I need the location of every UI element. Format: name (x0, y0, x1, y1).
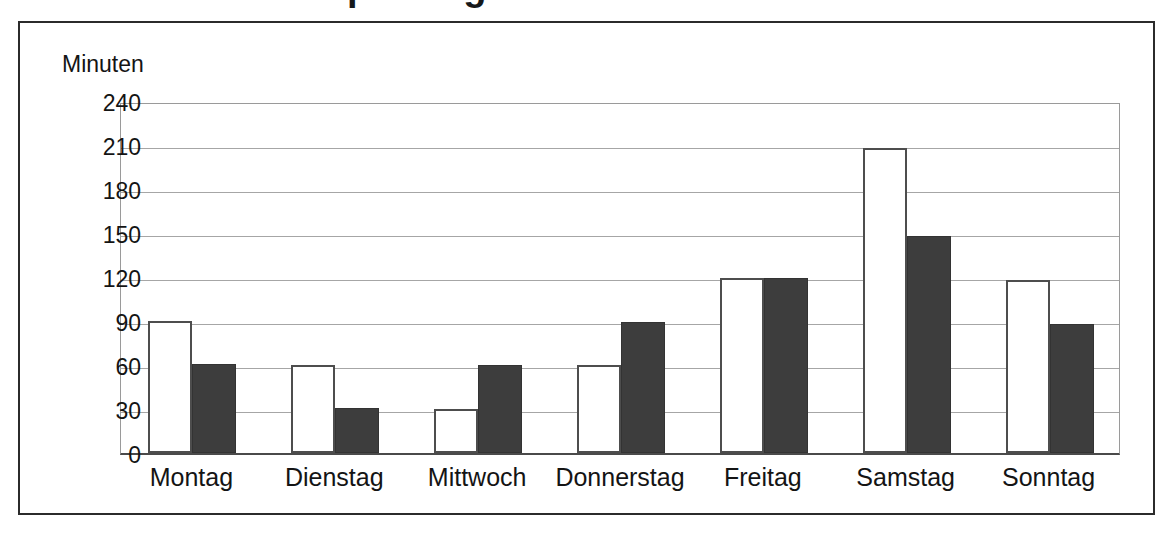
y-tick-label: 240 (51, 90, 141, 117)
bar-sonntag-series-2 (1050, 324, 1094, 453)
x-tick-label-freitag: Freitag (724, 463, 802, 492)
bar-mittwoch-series-2 (478, 365, 522, 453)
x-tick-label-montag: Montag (150, 463, 233, 492)
y-tick-label: 30 (51, 398, 141, 425)
bar-dienstag-series-1 (291, 365, 335, 453)
bar-sonntag-series-1 (1006, 280, 1050, 453)
bar-dienstag-series-2 (335, 408, 379, 453)
figure-frame: Minuten 0306090120150180210240 MontagDie… (18, 21, 1155, 515)
bar-montag-series-2 (192, 364, 236, 453)
bar-samstag-series-1 (863, 148, 907, 453)
x-axis-tick-labels: MontagDienstagMittwochDonnerstagFreitagS… (120, 463, 1120, 503)
bar-samstag-series-2 (907, 236, 951, 453)
x-tick-label-dienstag: Dienstag (285, 463, 384, 492)
bar-freitag-series-1 (720, 278, 764, 453)
y-tick-label: 90 (51, 310, 141, 337)
y-tick-label: 180 (51, 178, 141, 205)
y-tick-label: 210 (51, 134, 141, 161)
x-tick-label-donnerstag: Donnerstag (555, 463, 684, 492)
clipped-title-strip: Fernsehkonsum pro Tag (0, 0, 1171, 13)
y-tick-label: 150 (51, 222, 141, 249)
x-tick-label-sonntag: Sonntag (1002, 463, 1095, 492)
y-tick-label: 120 (51, 266, 141, 293)
bar-montag-series-1 (148, 321, 192, 453)
bar-donnerstag-series-1 (577, 365, 621, 453)
x-tick-label-mittwoch: Mittwoch (428, 463, 527, 492)
clipped-title-text: Fernsehkonsum pro Tag (36, 0, 487, 9)
y-tick-label: 60 (51, 354, 141, 381)
x-tick-label-samstag: Samstag (856, 463, 955, 492)
bar-donnerstag-series-2 (621, 322, 665, 453)
bar-mittwoch-series-1 (434, 409, 478, 453)
bar-freitag-series-2 (764, 278, 808, 453)
